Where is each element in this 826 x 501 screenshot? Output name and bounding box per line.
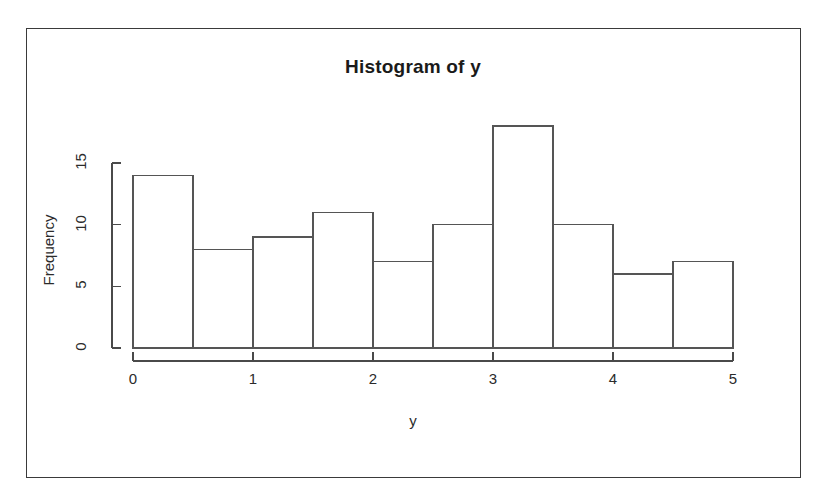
histogram-plot: Histogram of y Frequency y 051015 012345: [0, 0, 826, 501]
histogram-bar: [133, 175, 193, 348]
histogram-bar: [493, 126, 553, 348]
y-tick-label: 5: [72, 265, 89, 305]
plot-canvas: [0, 0, 826, 501]
histogram-bar: [433, 225, 493, 348]
histogram-bar: [613, 274, 673, 348]
histogram-bar: [193, 249, 253, 348]
y-tick-label: 0: [72, 327, 89, 367]
histogram-bar: [553, 225, 613, 348]
x-tick-label: 2: [353, 370, 393, 387]
x-tick-label: 5: [713, 370, 753, 387]
y-tick-label: 15: [72, 142, 89, 182]
y-tick-label: 10: [72, 203, 89, 243]
x-tick-label: 3: [473, 370, 513, 387]
histogram-bar: [253, 237, 313, 348]
x-tick-label: 1: [233, 370, 273, 387]
bars-group: [133, 126, 733, 348]
histogram-bar: [673, 262, 733, 348]
x-tick-label: 0: [113, 370, 153, 387]
histogram-bar: [313, 212, 373, 348]
x-tick-label: 4: [593, 370, 633, 387]
screenshot-root: Histogram of y Frequency y 051015 012345: [0, 0, 826, 501]
histogram-bar: [373, 262, 433, 348]
